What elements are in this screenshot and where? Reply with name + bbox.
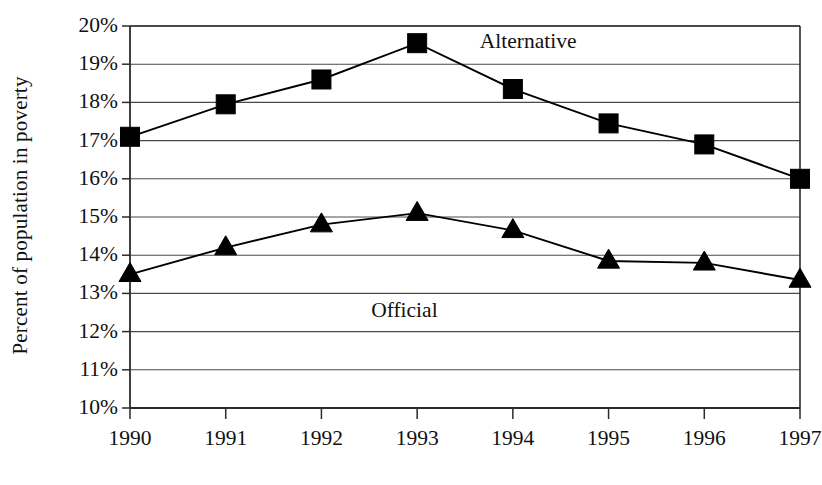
x-tick-label: 1995 (587, 428, 630, 450)
x-tick-label: 1992 (300, 428, 343, 450)
x-tick-label: 1994 (491, 428, 534, 450)
x-tick-label: 1991 (204, 428, 247, 450)
x-tick-label: 1996 (683, 428, 726, 450)
x-tick-label: 1993 (396, 428, 439, 450)
x-tick-label: 1990 (109, 428, 152, 450)
series-label-official: Official (371, 300, 437, 322)
series-label-alternative: Alternative (480, 31, 577, 53)
x-tick-label: 1997 (779, 428, 822, 450)
